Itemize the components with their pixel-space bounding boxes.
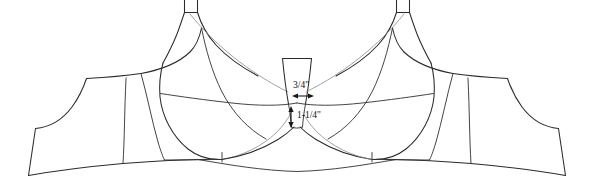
dimension-gore-height: 1-1/4" xyxy=(288,106,321,128)
gore-width-arrowhead-left xyxy=(292,93,298,98)
center-band-junction xyxy=(198,127,396,172)
left-cup-panel xyxy=(160,28,297,160)
right-cup-guide-lines xyxy=(303,14,430,160)
bra-pattern-drawing: 3/4" 1-1/4" xyxy=(0,0,594,184)
gore-height-label: 1-1/4" xyxy=(297,110,321,120)
left-cup-guide-lines xyxy=(165,14,292,160)
gore-width-label: 3/4" xyxy=(293,80,309,90)
gore-width-arrowhead-right xyxy=(308,93,314,98)
right-half-mirror xyxy=(297,0,566,176)
pattern-diagram: 3/4" 1-1/4" xyxy=(0,0,594,184)
right-cup-panel xyxy=(297,28,434,160)
